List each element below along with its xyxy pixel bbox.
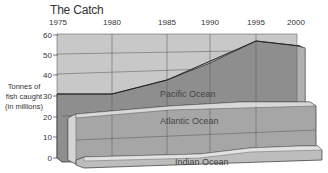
label-atlantic: Atlantic Ocean bbox=[160, 116, 219, 126]
label-pacific: Pacific Ocean bbox=[160, 89, 216, 99]
chart-plot: Pacific Ocean Atlantic Ocean Indian Ocea… bbox=[0, 0, 328, 173]
label-indian: Indian Ocean bbox=[175, 157, 229, 167]
